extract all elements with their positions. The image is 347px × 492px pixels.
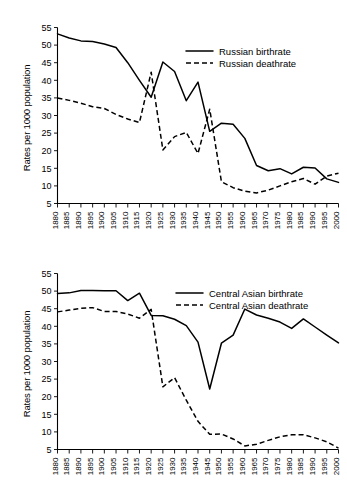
y-tick-label: 5 [46, 199, 51, 209]
x-tick-label: 1960 [238, 211, 247, 229]
y-tick-label: 40 [41, 76, 51, 86]
x-tick-label: 1910 [121, 457, 130, 475]
x-tick-label: 1965 [250, 211, 259, 229]
x-tick-label: 1915 [132, 457, 141, 475]
legend-label-central-asian-deathrate: Central Asian deathrate [209, 300, 308, 311]
y-axis-label: Rates per 1000 population [21, 311, 32, 417]
x-tick-label: 1895 [86, 211, 95, 229]
legend-label-russian-birthrate: Russian birthrate [219, 46, 291, 57]
x-tick-label: 1995 [320, 211, 329, 229]
x-tick-label: 1980 [285, 211, 294, 229]
y-axis-title-central-asia: Rates per 1000 population [21, 311, 32, 417]
chart-central-asia: Rates per 1000 population 51015202530354… [0, 246, 347, 492]
x-tick-label: 1890 [74, 457, 83, 475]
figure-page: Rates per 1000 population 51015202530354… [0, 0, 347, 492]
x-tick-label: 1880 [51, 457, 60, 475]
y-tick-label: 55 [41, 23, 51, 33]
x-tick-label: 1930 [168, 457, 177, 475]
x-tick-label: 1985 [296, 457, 305, 475]
x-tick-label: 1925 [156, 457, 165, 475]
y-tick-label: 5 [46, 445, 51, 455]
x-tick-label: 1920 [144, 457, 153, 475]
x-tick-label: 1980 [285, 457, 294, 475]
y-tick-label: 35 [41, 93, 51, 103]
series-russian-deathrate [58, 72, 339, 193]
x-tick-label: 1895 [86, 457, 95, 475]
legend-central-asia: Central Asian birthrate Central Asian de… [176, 288, 308, 311]
legend-label-russian-deathrate: Russian deathrate [219, 58, 296, 69]
x-tick-label: 1965 [250, 457, 259, 475]
y-axis-label: Rates per 1000 population [21, 65, 32, 171]
y-tick-label: 15 [41, 410, 51, 420]
x-tick-label: 1900 [97, 457, 106, 475]
y-tick-label: 30 [41, 111, 51, 121]
y-tick-label: 45 [41, 58, 51, 68]
chart-central-asia-canvas: Rates per 1000 population 51015202530354… [0, 246, 347, 492]
x-tick-label: 1935 [179, 457, 188, 475]
x-tick-label: 2000 [332, 457, 341, 475]
x-tick-label: 1885 [62, 457, 71, 475]
x-tick-label: 1905 [109, 457, 118, 475]
y-tick-label: 50 [41, 286, 51, 296]
y-tick-label: 30 [41, 357, 51, 367]
x-tick-label: 1925 [156, 211, 165, 229]
x-tick-label: 1940 [191, 211, 200, 229]
x-tick-label: 1920 [144, 211, 153, 229]
y-tick-label: 40 [41, 322, 51, 332]
x-tick-label: 1885 [62, 211, 71, 229]
chart-russia-canvas: Rates per 1000 population 51015202530354… [0, 0, 347, 246]
x-tick-label: 1960 [238, 457, 247, 475]
x-tick-label: 1990 [308, 211, 317, 229]
x-tick-label: 1900 [97, 211, 106, 229]
axes-russia [58, 28, 339, 204]
x-tick-label: 1970 [261, 457, 270, 475]
x-tick-label: 1995 [320, 457, 329, 475]
x-tick-label: 1890 [74, 211, 83, 229]
x-ticks-central-asia: 1880188518901895190019051910191519201925… [51, 450, 341, 476]
y-tick-label: 10 [41, 181, 51, 191]
x-tick-label: 1975 [273, 211, 282, 229]
y-tick-label: 20 [41, 146, 51, 156]
y-axis-title-russia: Rates per 1000 population [21, 65, 32, 171]
x-ticks-russia: 1880188518901895190019051910191519201925… [51, 204, 341, 230]
y-ticks-central-asia: 510152025303540455055 [41, 269, 57, 455]
plot-central-asia [58, 290, 339, 448]
x-tick-label: 1905 [109, 211, 118, 229]
x-tick-label: 1975 [273, 457, 282, 475]
x-tick-label: 1955 [226, 211, 235, 229]
x-tick-label: 1940 [191, 457, 200, 475]
x-tick-label: 1915 [132, 211, 141, 229]
y-tick-label: 55 [41, 269, 51, 279]
x-tick-label: 1970 [261, 211, 270, 229]
x-tick-label: 1945 [203, 457, 212, 475]
y-tick-label: 45 [41, 304, 51, 314]
y-tick-label: 25 [41, 374, 51, 384]
y-tick-label: 35 [41, 339, 51, 349]
x-tick-label: 1990 [308, 457, 317, 475]
x-tick-label: 1950 [214, 211, 223, 229]
x-tick-label: 1985 [296, 211, 305, 229]
chart-russia: Rates per 1000 population 51015202530354… [0, 0, 347, 246]
x-tick-label: 1930 [168, 211, 177, 229]
legend-label-central-asian-birthrate: Central Asian birthrate [209, 288, 303, 299]
y-tick-label: 10 [41, 427, 51, 437]
y-tick-label: 25 [41, 128, 51, 138]
x-tick-label: 2000 [332, 211, 341, 229]
plot-russia [58, 34, 339, 193]
y-tick-label: 50 [41, 40, 51, 50]
y-tick-label: 20 [41, 392, 51, 402]
x-tick-label: 1950 [214, 457, 223, 475]
x-tick-label: 1880 [51, 211, 60, 229]
series-central-asian-deathrate [58, 308, 339, 448]
x-tick-label: 1955 [226, 457, 235, 475]
x-tick-label: 1935 [179, 211, 188, 229]
x-tick-label: 1945 [203, 211, 212, 229]
legend-russia: Russian birthrate Russian deathrate [186, 46, 296, 69]
y-tick-label: 15 [41, 164, 51, 174]
y-ticks-russia: 510152025303540455055 [41, 23, 57, 209]
x-tick-label: 1910 [121, 211, 130, 229]
